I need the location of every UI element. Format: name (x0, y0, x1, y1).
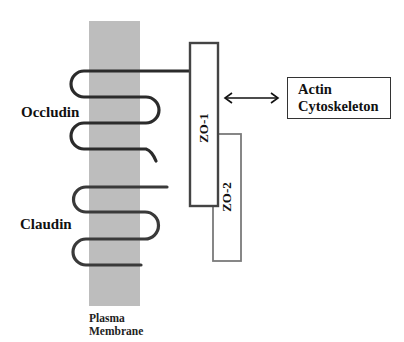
actin-label-line2: Cytoskeleton (298, 98, 379, 115)
plasma-membrane-label: Plasma Membrane (89, 312, 143, 338)
diagram-canvas (0, 0, 404, 342)
plasma-membrane (89, 21, 140, 306)
plasma-membrane-label-line1: Plasma (89, 312, 143, 325)
claudin-label: Claudin (20, 216, 72, 233)
plasma-membrane-label-line2: Membrane (89, 325, 143, 338)
actin-label-line1: Actin (298, 81, 379, 98)
zo2-label: ZO-2 (219, 179, 235, 215)
zo1-label: ZO-1 (196, 110, 212, 146)
occludin-label: Occludin (21, 104, 79, 121)
double-arrow-icon (225, 93, 278, 103)
actin-cytoskeleton-box: Actin Cytoskeleton (287, 77, 391, 119)
